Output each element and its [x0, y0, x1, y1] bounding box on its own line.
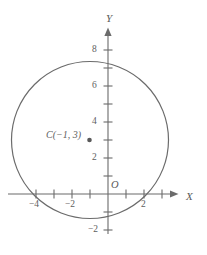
x-tick-label-minus4: −4	[29, 200, 39, 210]
x-tick-label-minus2: −2	[65, 200, 75, 210]
coordinate-plane-svg	[0, 0, 207, 255]
y-tick-label-4: 4	[92, 117, 97, 127]
x-tick-label-2: 2	[141, 200, 146, 210]
y-tick-label-2: 2	[92, 153, 97, 163]
origin-label: O	[111, 180, 119, 191]
center-point-label: C(−1, 3)	[46, 130, 81, 140]
x-axis-label: X	[186, 191, 193, 202]
x-axis-arrowhead	[170, 190, 179, 197]
y-axis-arrowhead	[104, 28, 111, 37]
geometry-figure: Y X O 8 6 4 2 −2 −4 −2 2 C(−1, 3)	[0, 0, 207, 255]
y-axis-label: Y	[106, 13, 112, 24]
y-tick-label-minus2: −2	[88, 225, 98, 235]
y-tick-label-8: 8	[92, 45, 97, 55]
y-tick-label-6: 6	[92, 81, 97, 91]
center-point-marker	[87, 138, 92, 143]
y-axis	[104, 28, 113, 235]
